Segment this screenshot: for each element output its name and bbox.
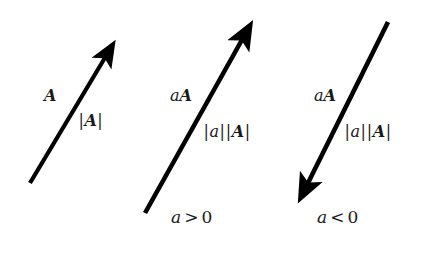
scalar-a-symbol: a	[314, 86, 324, 105]
vector-A-symbol: A	[324, 86, 336, 105]
caption-value: 0	[201, 207, 212, 227]
vector-A-symbol: A	[180, 86, 192, 105]
relation-less-than-icon: <	[327, 207, 347, 227]
vector-aA-negative-name-label: aA	[314, 88, 336, 104]
vector-A-symbol: A	[44, 86, 56, 105]
caption-a-less-than-zero: a<0	[317, 209, 358, 226]
caption-value: 0	[347, 207, 358, 227]
vector-A-magnitude-label: |A|	[78, 113, 103, 129]
vector-A-magnitude-symbol: A	[232, 122, 244, 141]
abs-bar-close-icon-2: |	[385, 122, 391, 141]
scalar-a-magnitude-symbol: a	[209, 122, 219, 141]
caption-a-greater-than-zero: a>0	[171, 209, 212, 226]
vector-aA-positive-magnitude-label: |a||A|	[203, 124, 251, 140]
vector-A-magnitude-symbol: A	[373, 122, 385, 141]
relation-greater-than-icon: >	[181, 207, 201, 227]
vector-A-name-label: A	[44, 88, 56, 104]
scalar-a-symbol: a	[170, 86, 180, 105]
caption-scalar-symbol: a	[317, 207, 327, 227]
abs-bar-close-icon-2: |	[244, 122, 250, 141]
abs-bar-close-icon: |	[97, 111, 103, 130]
scalar-a-magnitude-symbol: a	[350, 122, 360, 141]
caption-scalar-symbol: a	[171, 207, 181, 227]
vector-aA-negative-magnitude-label: |a||A|	[344, 124, 392, 140]
vector-aA-positive-name-label: aA	[170, 88, 192, 104]
vector-scaling-figure: A |A| aA |a||A| a>0 aA |a||A| a<0	[0, 0, 426, 254]
vector-A-magnitude-symbol: A	[84, 111, 96, 130]
